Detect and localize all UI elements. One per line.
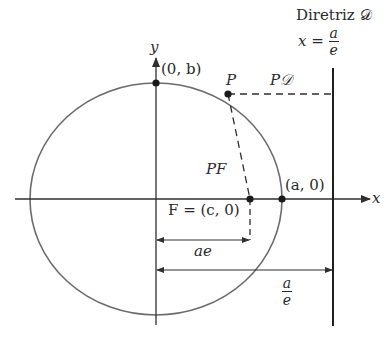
directrix-equation: x = a e xyxy=(298,26,339,57)
segment-pf-label: PF xyxy=(206,162,227,177)
segment-pf-dashed xyxy=(228,94,250,199)
a-over-e-fraction: a e xyxy=(282,276,292,307)
point-p xyxy=(224,90,231,97)
directrix-title: Diretriz 𝒟 xyxy=(296,8,372,23)
a-over-e-num: a xyxy=(283,276,291,290)
focus-label: F = (c, 0) xyxy=(168,203,240,218)
directrix-eq-fraction: a e xyxy=(329,26,339,57)
point-vertex-top xyxy=(152,79,159,86)
x-axis-label: x xyxy=(372,191,380,206)
dimension-a-over-e-label: a e xyxy=(282,276,292,307)
directrix-eq-num: a xyxy=(329,26,337,40)
vertex-top-label: (0, b) xyxy=(161,62,201,77)
directrix-eq-den: e xyxy=(329,43,337,57)
directrix-eq-lhs: x = xyxy=(298,32,324,50)
vertex-right-label: (a, 0) xyxy=(285,178,325,193)
a-over-e-den: e xyxy=(283,293,291,307)
point-p-label: P xyxy=(226,73,236,88)
point-focus xyxy=(246,195,253,202)
point-vertex-right xyxy=(278,195,285,202)
dimension-ae-label: ae xyxy=(194,244,212,259)
segment-pd-label: P𝒟 xyxy=(270,73,292,88)
y-axis-label: y xyxy=(150,40,158,55)
